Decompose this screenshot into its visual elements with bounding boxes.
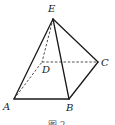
edge-ed — [42, 19, 53, 62]
vertex-label-d: D — [41, 64, 50, 75]
vertex-label-b: B — [65, 102, 73, 113]
edge-ea — [14, 19, 53, 99]
vertex-label-a: A — [2, 101, 10, 112]
edge-ad — [14, 62, 42, 99]
edge-eb — [53, 19, 69, 99]
vertex-label-e: E — [47, 3, 56, 14]
pyramid-diagram: E D C A B 图 2 — [0, 0, 115, 125]
figure-caption: 图 2 — [48, 120, 66, 125]
vertex-label-c: C — [101, 57, 109, 68]
pyramid-edges — [14, 19, 98, 99]
edge-bc — [69, 62, 98, 99]
